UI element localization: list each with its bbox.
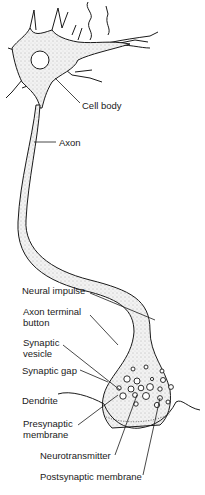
cell-body-shape — [12, 28, 130, 108]
label-axon: Axon — [59, 137, 81, 148]
label-neurotransmitter: Neurotransmitter — [40, 450, 111, 461]
label-dendrite: Dendrite — [22, 395, 58, 406]
label-postsynaptic-membrane: Postsynaptic membrane — [40, 471, 142, 482]
label-axon-terminal-button: Axon terminal button — [23, 306, 85, 328]
label-synaptic-vesicle: Synaptic vesicle — [23, 337, 73, 359]
nucleus — [31, 51, 49, 69]
label-neural-impulse: Neural impulse — [22, 285, 85, 296]
label-synaptic-gap: Synaptic gap — [22, 365, 77, 376]
label-cell-body: Cell body — [82, 100, 122, 111]
label-presynaptic-membrane: Presynaptic membrane — [23, 418, 83, 440]
axon-shape — [18, 105, 171, 428]
